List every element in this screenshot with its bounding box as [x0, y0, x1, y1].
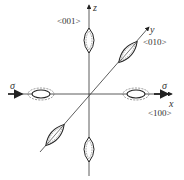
- stress-label-left: σ: [10, 81, 15, 91]
- lens-y-upper: [115, 38, 140, 65]
- crystal-axes-diagram: [0, 0, 184, 180]
- stress-label-right: σ: [162, 81, 167, 91]
- z-axis-label: z: [93, 3, 97, 13]
- x-direction-label: <100>: [148, 109, 172, 118]
- lens-y-lower: [42, 121, 67, 148]
- y-axis-label: y: [150, 25, 154, 35]
- lens-x-left: [28, 88, 54, 100]
- z-direction-label: <001>: [57, 17, 81, 26]
- lens-z-bottom: [84, 137, 94, 162]
- lens-x-right: [123, 88, 149, 100]
- lens-z-top: [84, 28, 94, 53]
- y-direction-label: <010>: [143, 38, 167, 47]
